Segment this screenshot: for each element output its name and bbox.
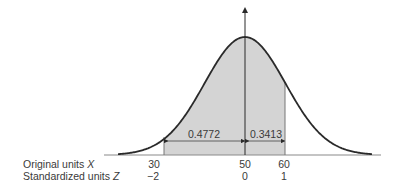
tick-x-30: 30 — [148, 158, 160, 170]
row-label-text: Original units — [23, 158, 84, 170]
area-label-left: 0.4772 — [188, 128, 220, 140]
tick-z-0: 0 — [242, 170, 248, 182]
tick-x-50: 50 — [239, 158, 251, 170]
area-label-right: 0.3413 — [250, 128, 282, 140]
row-var: X — [87, 158, 94, 170]
row-label-original: Original units X — [23, 158, 94, 170]
tick-z-1: 1 — [281, 170, 287, 182]
tick-x-60: 60 — [278, 158, 290, 170]
row-var: Z — [113, 170, 119, 182]
row-label-standardized: Standardized units Z — [23, 170, 119, 182]
tick-z-neg2: −2 — [147, 170, 159, 182]
row-label-text: Standardized units — [23, 170, 110, 182]
